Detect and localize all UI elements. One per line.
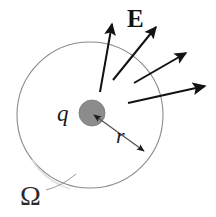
field-arrow-4 bbox=[128, 86, 205, 103]
surface-label-omega: Ω bbox=[20, 182, 41, 210]
charge-label-q: q bbox=[57, 102, 69, 125]
field-arrow-1 bbox=[100, 24, 112, 92]
field-label-E: E bbox=[127, 6, 144, 31]
point-charge-disc bbox=[79, 100, 105, 126]
radius-label-r: r bbox=[116, 125, 125, 147]
gauss-law-figure: E q r Ω bbox=[0, 0, 216, 217]
field-arrow-3 bbox=[134, 53, 186, 83]
